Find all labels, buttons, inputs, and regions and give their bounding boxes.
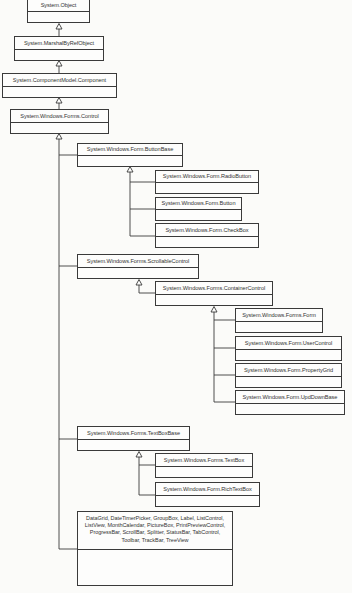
class-name: System.MarshalByRefObject: [15, 37, 103, 50]
class-name: System.Windows.Form.RichTextBox: [156, 483, 259, 496]
class-name: System.ComponentModel.Component: [3, 74, 116, 87]
class-name: System.Windows.Form.ButtonBase: [78, 144, 182, 156]
class-system-object: System.Object: [27, 0, 90, 23]
class-radio-button: System.Windows.Form.RadioButton: [155, 170, 259, 194]
class-name: System.Windows.Forms.ScrollableControl: [78, 255, 198, 268]
generalization-arrow-icon: [56, 24, 62, 30]
class-name: System.Windows.Form.Button: [156, 198, 241, 210]
class-name: System.Windows.Forms.TextBoxBase: [78, 427, 189, 440]
class-name: System.Object: [28, 0, 89, 12]
class-component: System.ComponentModel.Component: [2, 73, 117, 98]
class-name-list: DataGrid, DateTimerPicker, GroupBox, Lab…: [78, 512, 232, 550]
class-property-grid: System.Windows.Form.PropertyGrid: [235, 363, 342, 388]
class-button-base: System.Windows.Form.ButtonBase: [77, 143, 183, 167]
class-other-controls-group: DataGrid, DateTimerPicker, GroupBox, Lab…: [77, 511, 233, 586]
class-up-down-base: System.Windows.Form.UpdDownBase: [235, 390, 345, 415]
class-text-box: System.Windows.Forms.TextBox: [155, 453, 253, 478]
class-hierarchy-diagram: System.Object System.MarshalByRefObject …: [0, 0, 352, 593]
generalization-arrow-icon: [136, 452, 142, 458]
class-scrollable-control: System.Windows.Forms.ScrollableControl: [77, 254, 199, 279]
class-form: System.Windows.Forms.Form: [235, 308, 323, 333]
class-container-control: System.Windows.Forms.ContainerControl: [155, 281, 273, 306]
class-control: System.Windows.Forms.Control: [10, 109, 109, 134]
generalization-arrow-icon: [211, 307, 217, 313]
class-name: System.Windows.Forms.Form: [236, 309, 322, 322]
class-name: System.Windows.Forms.Control: [11, 110, 108, 123]
class-name: System.Windows.Form.CheckBox: [156, 224, 258, 237]
class-name: System.Windows.Forms.ContainerControl: [156, 282, 272, 295]
generalization-arrow-icon: [127, 167, 133, 173]
class-name: System.Windows.Form.UpdDownBase: [236, 391, 344, 404]
class-rich-text-box: System.Windows.Form.RichTextBox: [155, 482, 260, 507]
generalization-arrow-icon: [56, 134, 62, 140]
class-marshal-by-ref-object: System.MarshalByRefObject: [14, 36, 104, 61]
class-name: System.Windows.Form.UserControl: [236, 337, 341, 350]
generalization-arrow-icon: [56, 98, 62, 104]
class-name: System.Windows.Forms.TextBox: [156, 454, 252, 467]
class-name: System.Windows.Form.PropertyGrid: [236, 364, 341, 377]
class-check-box: System.Windows.Form.CheckBox: [155, 223, 259, 248]
class-user-control: System.Windows.Form.UserControl: [235, 336, 342, 361]
class-text-box-base: System.Windows.Forms.TextBoxBase: [77, 426, 190, 451]
generalization-arrow-icon: [56, 61, 62, 67]
class-button: System.Windows.Form.Button: [155, 197, 242, 221]
generalization-arrow-icon: [136, 280, 142, 286]
class-name: System.Windows.Form.RadioButton: [156, 171, 258, 183]
